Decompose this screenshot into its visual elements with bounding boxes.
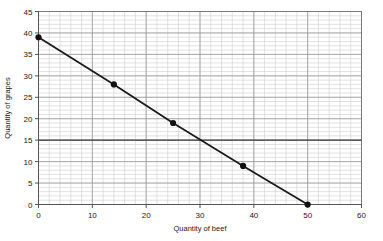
- y-tick-label: 30: [24, 72, 33, 81]
- x-tick-label: 30: [196, 211, 205, 220]
- x-tick-label: 60: [357, 211, 366, 220]
- y-axis-title: Quantity of grapes: [3, 77, 12, 139]
- y-tick-label: 0: [28, 201, 33, 210]
- y-tick-label: 5: [28, 179, 33, 188]
- data-point-marker: [170, 120, 176, 126]
- data-point-marker: [35, 34, 41, 40]
- y-tick-label: 20: [24, 115, 33, 124]
- chart-container: 0102030405060 051015202530354045 Quantit…: [0, 0, 383, 241]
- x-tick-label: 10: [88, 211, 97, 220]
- y-tick-label: 15: [24, 136, 33, 145]
- x-tick-label: 20: [142, 211, 151, 220]
- y-tick-label: 10: [24, 158, 33, 167]
- y-tick-label: 25: [24, 93, 33, 102]
- y-tick-label: 40: [24, 29, 33, 38]
- y-tick-label: 35: [24, 50, 33, 59]
- x-tick-label: 40: [249, 211, 258, 220]
- x-tick-label: 0: [36, 211, 41, 220]
- chart-plot: 0102030405060 051015202530354045 Quantit…: [0, 0, 383, 241]
- data-point-marker: [305, 201, 311, 207]
- data-point-marker: [240, 163, 246, 169]
- x-axis-title: Quantity of beef: [174, 224, 228, 233]
- data-point-marker: [111, 81, 117, 87]
- x-tick-label: 50: [303, 211, 312, 220]
- y-tick-label: 45: [24, 8, 33, 17]
